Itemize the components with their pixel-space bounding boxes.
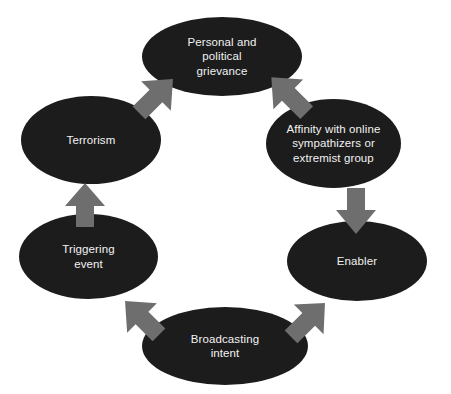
node-affinity-with-online-sympathizers: Affinity with online sympathizers or ext… bbox=[266, 99, 401, 188]
node-label: Affinity with online sympathizers or ext… bbox=[277, 122, 391, 166]
node-label: Personal and political grievance bbox=[178, 35, 267, 79]
node-label: Triggering event bbox=[52, 242, 124, 271]
cycle-diagram: Personal and political grievance Affinit… bbox=[0, 0, 451, 394]
node-triggering-event: Triggering event bbox=[19, 214, 158, 299]
node-label: Broadcasting intent bbox=[181, 332, 269, 361]
node-personal-and-political-grievance: Personal and political grievance bbox=[142, 17, 302, 96]
node-terrorism: Terrorism bbox=[21, 96, 161, 184]
node-broadcasting-intent: Broadcasting intent bbox=[142, 307, 308, 385]
node-label: Terrorism bbox=[57, 133, 126, 148]
node-enabler: Enabler bbox=[287, 221, 427, 301]
node-label: Enabler bbox=[327, 254, 387, 269]
